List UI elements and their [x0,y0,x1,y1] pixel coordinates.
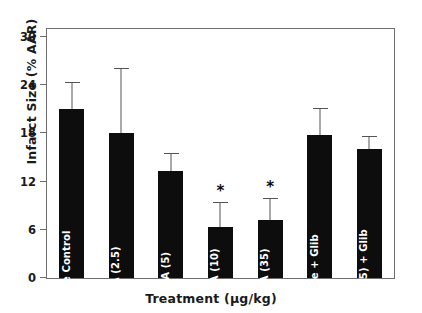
y-tick-24: 24 [40,84,47,85]
bar-group: MLA (35) + Glib [344,29,394,278]
bar-column: MLA (5) [158,29,183,278]
y-tick-12: 12 [40,181,47,182]
error-bar [121,68,122,138]
bar-group: MLA (2.5) [97,29,147,278]
bar-group: Vehicle + Glib [295,29,345,278]
bar-category-label: MLA (5) [161,252,171,296]
y-tick-label-12: 12 [20,175,36,189]
bar-group: MLA (10)* [196,29,246,278]
y-tick-0: 0 [40,277,47,278]
y-tick-label-18: 18 [20,126,36,140]
bar: MLA (10) [208,227,233,278]
x-axis-title: Treatment (µg/kg) [0,291,422,306]
error-bar-cap [114,68,129,69]
error-bar-cap [263,198,278,199]
significance-marker: * [217,184,225,199]
bar-column: MLA (2.5) [109,29,134,278]
bar-group: MLA (35)* [245,29,295,278]
error-bar-cap [164,153,179,154]
error-bar-cap [213,202,228,203]
significance-marker: * [266,180,274,195]
y-tick-6: 6 [40,229,47,230]
bar-group: Vehicle Control [47,29,97,278]
y-tick-label-6: 6 [28,223,36,237]
bar-column: Vehicle Control [59,29,84,278]
error-bar-cap [313,108,328,109]
y-tick-18: 18 [40,132,47,133]
bar: Vehicle Control [59,109,84,278]
error-bar-cap [362,136,377,137]
bar: MLA (35) + Glib [357,149,382,278]
bar-column: MLA (35) + Glib [357,29,382,278]
y-tick-label-30: 30 [20,30,36,44]
bar-column: MLA (35)* [258,29,283,278]
bar-column: Vehicle + Glib [307,29,332,278]
bar: MLA (35) [258,220,283,278]
bar-group: MLA (5) [146,29,196,278]
figure-infarct-size-bar-chart: Infarct Size (% AAR) 0612182430 Vehicle … [0,0,422,313]
bar: Vehicle + Glib [307,135,332,278]
y-tick-30: 30 [40,36,47,37]
y-tick-label-24: 24 [20,78,36,92]
y-tick-label-0: 0 [28,271,36,285]
bar: MLA (2.5) [109,133,134,278]
plot-area: 0612182430 Vehicle ControlMLA (2.5)MLA (… [46,28,395,279]
bar: MLA (5) [158,171,183,278]
error-bar-cap [65,82,80,83]
bar-column: MLA (10)* [208,29,233,278]
